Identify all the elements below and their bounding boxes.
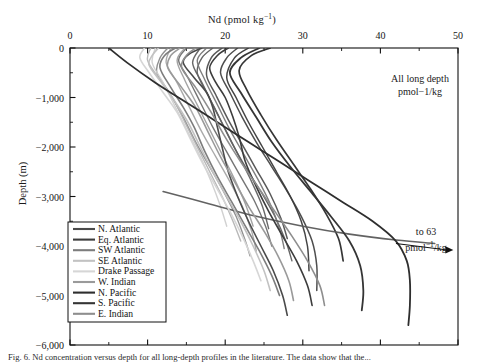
x-tick-label: 50 [453, 30, 463, 41]
y-tick-label: −1,000 [8, 92, 64, 103]
figure-caption: Fig. 6. Nd concentration versus depth fo… [8, 352, 478, 362]
legend-label[interactable]: E. Indian [98, 308, 133, 319]
off-scale-note: to 63 pmol−1/kg [378, 226, 474, 254]
legend-label[interactable]: N. Pacific [98, 287, 136, 298]
all-profiles-note-line1: All long depth [368, 73, 472, 86]
y-tick-label: −2,000 [8, 142, 64, 153]
legend-label[interactable]: S. Pacific [98, 297, 135, 308]
legend-label[interactable]: N. Atlantic [98, 223, 140, 234]
off-scale-note-line1: to 63 [378, 226, 474, 239]
legend-label[interactable]: W. Indian [98, 276, 135, 287]
y-tick-label: −4,000 [8, 241, 64, 252]
x-tick-label: 10 [143, 30, 153, 41]
y-tick-label: 0 [8, 43, 64, 54]
profile-line-w-indian [167, 48, 293, 300]
y-tick-label: −6,000 [8, 340, 64, 351]
legend-label[interactable]: Eq. Atlantic [98, 234, 144, 245]
legend-label[interactable]: SW Atlantic [98, 244, 145, 255]
y-tick-label: −3,000 [8, 191, 64, 202]
off-scale-note-line2: pmol−1/kg [378, 239, 474, 255]
y-tick-label: −5,000 [8, 290, 64, 301]
legend-label[interactable]: Drake Passage [98, 265, 154, 276]
x-tick-label: 30 [298, 30, 308, 41]
profile-line [239, 48, 343, 261]
legend-label[interactable]: SE Atlantic [98, 255, 142, 266]
x-tick-label: 40 [375, 30, 385, 41]
all-profiles-note: All long depth pmol−1/kg [368, 73, 472, 98]
x-tick-label: 20 [220, 30, 230, 41]
x-tick-label: 0 [68, 30, 73, 41]
figure-container: Nd (pmol kg−1) Depth (m) All long depth … [0, 0, 484, 363]
chart-svg [0, 0, 484, 363]
all-profiles-note-line2: pmol−1/kg [368, 86, 472, 99]
profile-line [206, 48, 287, 239]
